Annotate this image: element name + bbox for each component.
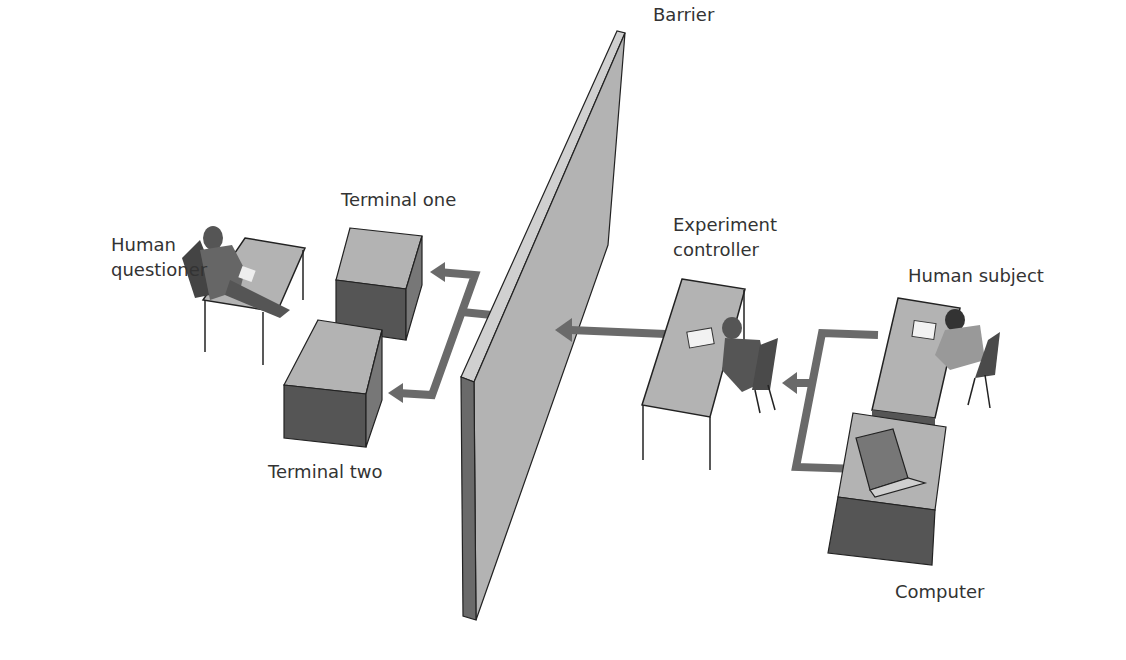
- diagram-canvas: [0, 0, 1126, 660]
- human-questioner-label-line1: Human: [111, 233, 176, 257]
- barrier-label: Barrier: [653, 3, 714, 27]
- terminal-one: [336, 228, 422, 340]
- arrow-head-terminal-two: [388, 383, 403, 403]
- experiment-controller-label-line1: Experiment: [673, 213, 777, 237]
- terminal-one-label: Terminal one: [341, 188, 456, 212]
- human-subject-label: Human subject: [908, 264, 1044, 288]
- human-questioner-label-line2: questioner: [111, 258, 207, 282]
- computer-label: Computer: [895, 580, 984, 604]
- terminal-two: [284, 320, 382, 447]
- terminal-two-label: Terminal two: [268, 460, 383, 484]
- arrow-head-terminal-one: [430, 262, 445, 282]
- arrow-head-controller: [782, 372, 797, 394]
- barrier: [461, 31, 625, 620]
- experiment-controller-label-line2: controller: [673, 238, 759, 262]
